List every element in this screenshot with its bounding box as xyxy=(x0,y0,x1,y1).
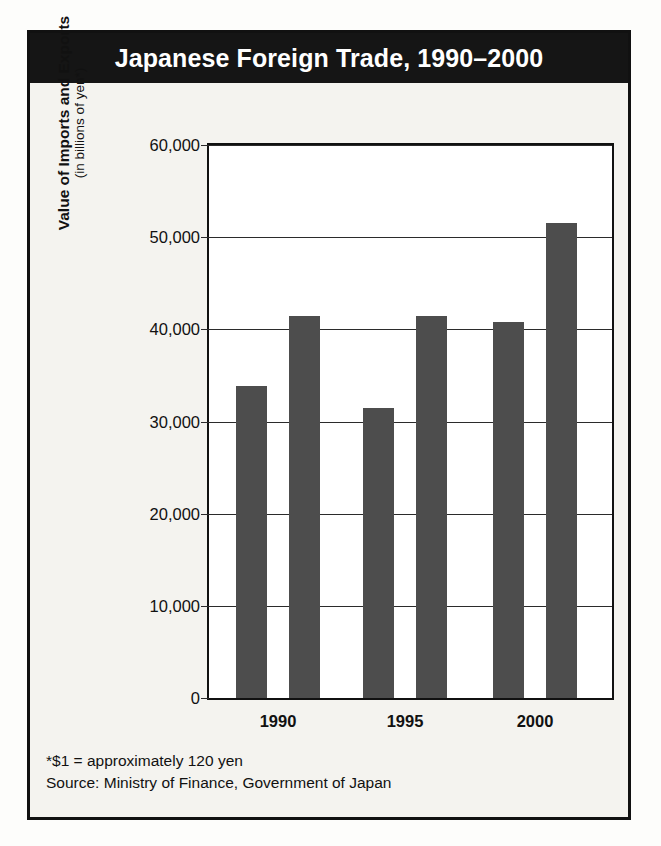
y-axis-tick-mark xyxy=(201,698,209,699)
y-axis-tick-mark xyxy=(201,606,209,607)
bar-1990-exports xyxy=(289,316,320,698)
gridline xyxy=(209,145,612,146)
bar-1990-imports xyxy=(236,386,267,698)
y-axis-tick-mark xyxy=(201,422,209,423)
chart-footnotes: *$1 = approximately 120 yen Source: Mini… xyxy=(46,750,586,794)
footnote-exchange-rate: *$1 = approximately 120 yen xyxy=(46,750,586,772)
bar-1995-exports xyxy=(416,316,447,698)
y-axis-tick-label: 0 xyxy=(191,689,200,708)
y-axis-tick-label: 30,000 xyxy=(150,412,200,431)
chart-title-bar: Japanese Foreign Trade, 1990–2000 xyxy=(30,33,628,83)
x-axis-tick-label: 1995 xyxy=(387,712,424,731)
footnote-source: Source: Ministry of Finance, Government … xyxy=(46,772,586,794)
y-axis-title-line2: (in billions of yen*) xyxy=(72,68,87,178)
chart-body: Value of Imports and Exports (in billion… xyxy=(30,83,628,817)
y-axis-tick-label: 40,000 xyxy=(150,320,200,339)
y-axis-tick-label: 20,000 xyxy=(150,504,200,523)
bar-2000-imports xyxy=(493,322,524,698)
y-axis-title: Value of Imports and Exports (in billion… xyxy=(49,0,93,288)
page-title: Japanese Foreign Trade, 1990–2000 xyxy=(115,44,544,73)
chart-figure: Japanese Foreign Trade, 1990–2000 Value … xyxy=(27,30,631,820)
y-axis-tick-mark xyxy=(201,329,209,330)
y-axis-title-line1: Value of Imports and Exports xyxy=(55,16,72,230)
y-axis-tick-label: 10,000 xyxy=(150,596,200,615)
y-axis-tick-label: 60,000 xyxy=(150,136,200,155)
y-axis-tick-label: 50,000 xyxy=(150,228,200,247)
bar-2000-exports xyxy=(546,223,577,698)
y-axis-tick-mark xyxy=(201,145,209,146)
bar-1995-imports xyxy=(363,408,394,698)
x-axis-tick-label: 1990 xyxy=(260,712,297,731)
plot-area: 010,00020,00030,00040,00050,00060,000199… xyxy=(207,143,614,700)
y-axis-tick-mark xyxy=(201,514,209,515)
y-axis-tick-mark xyxy=(201,237,209,238)
x-axis-tick-label: 2000 xyxy=(517,712,554,731)
